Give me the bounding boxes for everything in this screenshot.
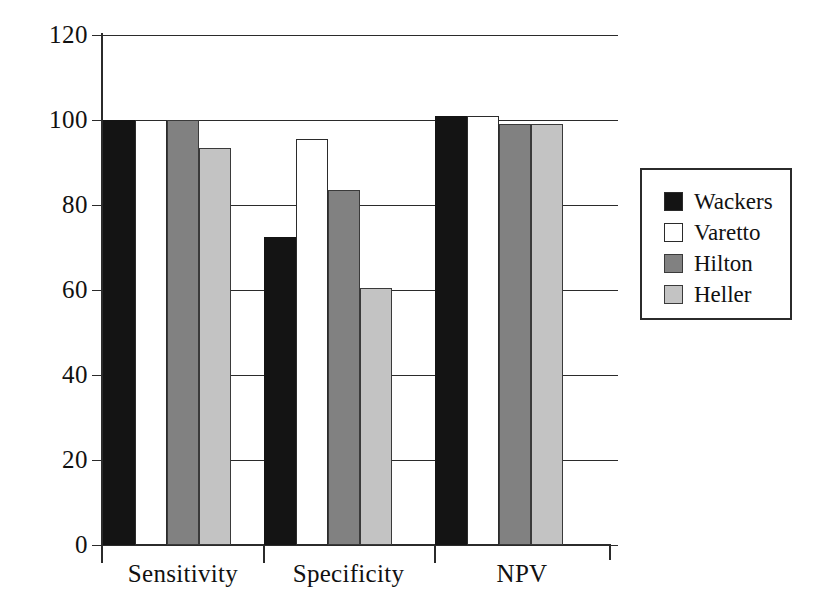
- y-tick-120: [92, 35, 103, 36]
- bar-specificity-hilton: [328, 190, 360, 545]
- bar-npv-heller: [531, 124, 563, 545]
- bar-chart-figure: 120 100 80 60 40 20 0 Sensitivity Specif…: [0, 0, 823, 606]
- legend-item-wackers: Wackers: [664, 186, 773, 216]
- legend-label-heller: Heller: [694, 283, 751, 306]
- gridline-120: [103, 35, 618, 36]
- legend-swatch-varetto-icon: [664, 223, 683, 242]
- legend-item-varetto: Varetto: [664, 217, 773, 247]
- y-tick-label-40: 40: [10, 362, 88, 387]
- y-tick-label-20: 20: [10, 447, 88, 472]
- legend-item-heller: Heller: [664, 279, 773, 309]
- bar-specificity-varetto: [296, 139, 328, 545]
- y-tick-label-120: 120: [10, 22, 88, 47]
- plot-area: [103, 35, 618, 545]
- legend-list: Wackers Varetto Hilton Heller: [664, 186, 773, 310]
- legend: Wackers Varetto Hilton Heller: [640, 168, 792, 320]
- bar-sensitivity-heller: [199, 148, 231, 545]
- y-tick-label-100: 100: [10, 107, 88, 132]
- legend-label-wackers: Wackers: [694, 190, 773, 213]
- bar-sensitivity-wackers: [103, 120, 135, 545]
- x-axis-end-tick: [609, 544, 611, 560]
- bar-npv-wackers: [435, 116, 467, 545]
- legend-item-hilton: Hilton: [664, 248, 773, 278]
- bar-specificity-heller: [360, 288, 392, 545]
- bar-npv-varetto: [467, 116, 499, 545]
- legend-swatch-heller-icon: [664, 285, 683, 304]
- y-tick-40: [92, 375, 103, 376]
- y-tick-label-0: 0: [10, 532, 88, 557]
- x-label-npv: NPV: [434, 560, 610, 588]
- legend-label-hilton: Hilton: [694, 252, 753, 275]
- y-tick-80: [92, 205, 103, 206]
- y-tick-100: [92, 120, 103, 121]
- bar-sensitivity-varetto: [135, 120, 167, 545]
- legend-swatch-wackers-icon: [664, 192, 683, 211]
- y-tick-20: [92, 460, 103, 461]
- x-label-sensitivity: Sensitivity: [102, 560, 264, 588]
- legend-label-varetto: Varetto: [694, 221, 760, 244]
- bar-sensitivity-hilton: [167, 120, 199, 545]
- y-tick-label-80: 80: [10, 192, 88, 217]
- y-tick-60: [92, 290, 103, 291]
- bar-npv-hilton: [499, 124, 531, 545]
- legend-swatch-hilton-icon: [664, 254, 683, 273]
- bar-specificity-wackers: [264, 237, 296, 545]
- y-tick-label-60: 60: [10, 277, 88, 302]
- x-label-specificity: Specificity: [263, 560, 434, 588]
